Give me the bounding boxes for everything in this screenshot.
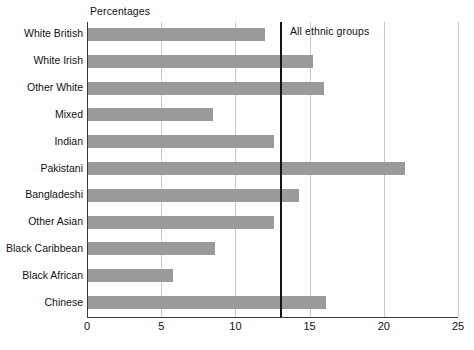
x-tick-label: 10 xyxy=(229,320,241,332)
x-tick-label: 5 xyxy=(158,320,164,332)
category-label: Indian xyxy=(0,135,83,147)
bar xyxy=(87,108,213,121)
category-label: Chinese xyxy=(0,296,83,308)
category-label: Other Asian xyxy=(0,215,83,227)
bar-row xyxy=(87,269,458,282)
x-tick-label: 25 xyxy=(452,320,464,332)
x-tick-label: 0 xyxy=(84,320,90,332)
category-label: Other White xyxy=(0,81,83,93)
bar-row xyxy=(87,108,458,121)
bar-row xyxy=(87,82,458,95)
bar-row xyxy=(87,55,458,68)
bar-row xyxy=(87,296,458,309)
x-axis-tick-labels: 0510152025 xyxy=(87,320,458,340)
category-label: Bangladeshi xyxy=(0,188,83,200)
bar-row xyxy=(87,162,458,175)
bar xyxy=(87,55,313,68)
bar xyxy=(87,162,405,175)
bar xyxy=(87,189,299,202)
x-axis-line xyxy=(87,317,458,318)
bar-row xyxy=(87,242,458,255)
bar xyxy=(87,269,173,282)
category-label: White British xyxy=(0,27,83,39)
bar xyxy=(87,216,274,229)
plot-area xyxy=(87,22,458,317)
bar xyxy=(87,82,324,95)
bar xyxy=(87,28,265,41)
x-tick-label: 15 xyxy=(303,320,315,332)
bar-chart: Percentages All ethnic groups White Brit… xyxy=(0,0,474,350)
category-label: Pakistani xyxy=(0,162,83,174)
bar-row xyxy=(87,189,458,202)
reference-line xyxy=(280,22,282,317)
gridline-25 xyxy=(458,22,459,317)
bar-row xyxy=(87,135,458,148)
bar xyxy=(87,242,215,255)
y-axis-line xyxy=(87,22,88,317)
category-label: Mixed xyxy=(0,108,83,120)
category-label: Black African xyxy=(0,269,83,281)
bar-row xyxy=(87,216,458,229)
category-axis-labels: White BritishWhite IrishOther WhiteMixed… xyxy=(0,22,83,317)
x-axis-title: Percentages xyxy=(90,5,150,17)
bar xyxy=(87,135,274,148)
bar-row xyxy=(87,28,458,41)
bar xyxy=(87,296,326,309)
category-label: Black Caribbean xyxy=(0,242,83,254)
category-label: White Irish xyxy=(0,54,83,66)
x-tick-label: 20 xyxy=(378,320,390,332)
